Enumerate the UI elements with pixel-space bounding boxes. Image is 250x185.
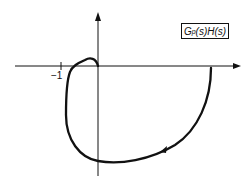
label-g: G — [184, 26, 192, 37]
tick-label-minus-one: −1 — [51, 70, 62, 81]
transfer-function-label: Gp(s)H(s) — [181, 23, 229, 39]
nyquist-curve — [66, 58, 211, 162]
arrow-up-icon — [95, 12, 101, 21]
real-axis — [15, 63, 241, 69]
arrow-right-icon — [233, 63, 241, 69]
imaginary-axis — [95, 12, 101, 176]
label-rest: (s)H(s) — [196, 26, 227, 37]
direction-arrow-icon — [160, 146, 167, 153]
